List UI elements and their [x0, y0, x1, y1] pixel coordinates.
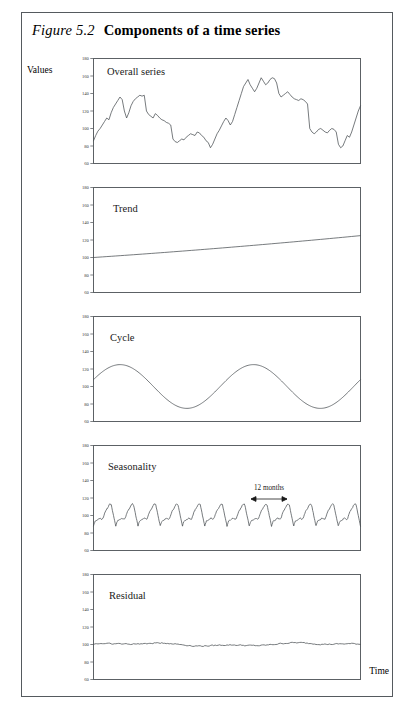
y-tick-label: 180	[82, 443, 90, 448]
seasonality-span-label: 12 months	[254, 484, 284, 492]
y-tick-label: 120	[82, 367, 90, 372]
y-axis-label: Values	[27, 65, 52, 76]
panel-seasonality-plot: 1801601401201008060 Seasonality 12 month…	[73, 444, 363, 556]
panel-label: Seasonality	[108, 461, 157, 472]
y-tick-label: 60	[84, 677, 89, 682]
panel-label: Overall series	[107, 66, 165, 77]
y-tick-label: 140	[82, 349, 90, 354]
figure-title: Figure 5.2Components of a time series	[32, 21, 372, 43]
y-tick-label: 120	[82, 496, 90, 501]
figure-frame: Figure 5.2Components of a time series Va…	[21, 12, 393, 697]
y-tick-label: 180	[82, 314, 90, 319]
y-tick-label: 140	[82, 478, 90, 483]
y-tick-label: 160	[82, 203, 90, 208]
y-tick-label: 60	[84, 548, 89, 553]
y-tick-label: 80	[84, 144, 89, 149]
y-tick-label: 120	[82, 109, 90, 114]
panel-residual: 1801601401201008060 Residual	[73, 573, 363, 685]
y-tick-label: 100	[82, 126, 90, 131]
y-tick-label: 160	[82, 332, 90, 337]
panel-label: Residual	[109, 590, 146, 601]
y-tick-label: 100	[82, 255, 90, 260]
y-tick-label: 80	[84, 660, 89, 665]
panel-trend: 1801601401201008060 Trend	[73, 186, 363, 298]
y-tick-label: 120	[82, 625, 90, 630]
panel-label: Trend	[113, 203, 138, 214]
y-tick-label: 60	[84, 161, 89, 166]
y-tick-label: 140	[82, 220, 90, 225]
y-tick-label: 100	[82, 642, 90, 647]
y-tick-label: 80	[84, 402, 89, 407]
y-tick-label: 180	[82, 56, 90, 61]
panel-cycle: 1801601401201008060 Cycle	[73, 315, 363, 427]
panel-seasonality: 1801601401201008060 Seasonality 12 month…	[73, 444, 363, 556]
y-tick-label: 80	[84, 531, 89, 536]
panel-residual-plot: 1801601401201008060 Residual	[73, 573, 363, 685]
y-tick-label: 100	[82, 513, 90, 518]
panel-label: Cycle	[110, 332, 135, 343]
y-tick-label: 180	[82, 185, 90, 190]
y-tick-label: 80	[84, 273, 89, 278]
y-tick-label: 180	[82, 572, 90, 577]
y-tick-label: 160	[82, 590, 90, 595]
panel-overall-series-plot: 1801601401201008060 Overall series	[73, 57, 363, 169]
panel-overall-series: 1801601401201008060 Overall series	[73, 57, 363, 169]
y-tick-label: 140	[82, 607, 90, 612]
y-tick-label: 160	[82, 74, 90, 79]
y-tick-label: 140	[82, 91, 90, 96]
figure-number: Figure 5.2	[32, 22, 95, 38]
y-tick-label: 160	[82, 461, 90, 466]
y-tick-label: 60	[84, 419, 89, 424]
panel-trend-plot: 1801601401201008060 Trend	[73, 186, 363, 298]
x-axis-label: Time	[369, 666, 389, 677]
y-tick-label: 120	[82, 238, 90, 243]
figure-caption: Components of a time series	[104, 22, 281, 38]
y-tick-label: 100	[82, 384, 90, 389]
y-tick-label: 60	[84, 290, 89, 295]
panel-cycle-plot: 1801601401201008060 Cycle	[73, 315, 363, 427]
